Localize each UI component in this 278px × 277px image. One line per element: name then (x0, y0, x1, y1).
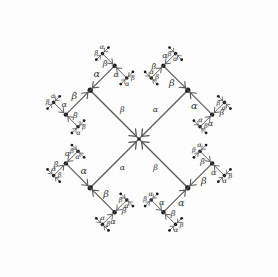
label-beta: β (72, 110, 78, 120)
branch-edge (139, 90, 188, 139)
tree-node (83, 119, 86, 122)
tree-node (193, 119, 196, 122)
tree-node (168, 46, 171, 49)
label-alpha: α (149, 68, 154, 76)
tree-node (95, 217, 98, 220)
label-beta: β (130, 74, 135, 82)
tree-node (58, 95, 61, 98)
tree-node (193, 156, 196, 159)
tree-node (71, 132, 74, 135)
label-alpha: α (113, 69, 119, 79)
label-beta: β (215, 99, 220, 107)
tree-node (107, 46, 110, 49)
tree-node (217, 180, 220, 183)
label-beta: β (69, 147, 74, 155)
tree-node (229, 107, 232, 110)
tree-node (71, 144, 74, 147)
tree-node (83, 156, 86, 159)
tree-node (168, 229, 171, 232)
label-alpha: α (80, 165, 87, 176)
branch-edge (139, 139, 188, 188)
label-beta: β (119, 105, 125, 114)
tree-node (119, 193, 122, 196)
tree-node (229, 168, 232, 171)
branch-edge (66, 90, 90, 114)
label-alpha: α (211, 167, 217, 177)
tree-node (58, 180, 61, 183)
tree-node (144, 205, 147, 208)
label-beta: β (170, 208, 176, 218)
tree-node (180, 217, 183, 220)
label-alpha: α (101, 214, 106, 222)
label-alpha: α (191, 100, 198, 111)
tree-node (46, 168, 49, 171)
fractal-canvas: ββαβαββαααβαββαααβαβααβββαβααβααβαβααβββ… (0, 0, 278, 277)
label-beta: β (227, 172, 232, 180)
label-alpha: α (110, 216, 116, 226)
label-alpha: α (178, 197, 185, 208)
label-beta: β (102, 188, 109, 199)
label-beta: β (199, 156, 205, 166)
fractal-figure: ββαβαββαααβαββαααβαβααβββαβααβααβαβααβββ… (0, 0, 278, 277)
label-alpha: α (174, 226, 179, 234)
label-beta: β (70, 90, 77, 101)
tree-node (107, 229, 110, 232)
label-beta: β (179, 221, 184, 229)
tree-node (95, 58, 98, 61)
label-alpha: α (159, 197, 165, 207)
label-alpha: α (153, 105, 159, 114)
tree-node (156, 83, 159, 86)
tree-node (217, 95, 220, 98)
tree-node (132, 71, 135, 74)
label-alpha: α (120, 163, 126, 172)
label-alpha: α (223, 177, 228, 185)
tree-node (132, 205, 135, 208)
label-beta: β (167, 50, 172, 58)
label-alpha: α (208, 118, 214, 128)
label-beta: β (102, 58, 108, 68)
label-alpha: α (52, 165, 57, 173)
label-alpha: α (125, 80, 130, 88)
tree-node (119, 83, 122, 86)
tree-node (144, 71, 147, 74)
label-beta: β (152, 163, 158, 172)
tree-node (156, 193, 159, 196)
tree-node (46, 107, 49, 110)
tree-node (180, 58, 183, 61)
label-beta: β (118, 196, 123, 204)
branch-edge (90, 90, 139, 139)
tree-node (205, 144, 208, 147)
label-alpha: α (93, 68, 100, 79)
tree-node (205, 132, 208, 135)
label-beta: β (168, 77, 175, 88)
label-beta: β (200, 175, 207, 186)
label-alpha: α (198, 116, 203, 124)
label-alpha: α (76, 129, 81, 137)
label-alpha: α (61, 99, 67, 109)
branch-edge (90, 139, 139, 188)
label-beta: β (81, 123, 86, 131)
tree-node (137, 137, 140, 140)
branch-edge (163, 66, 187, 90)
